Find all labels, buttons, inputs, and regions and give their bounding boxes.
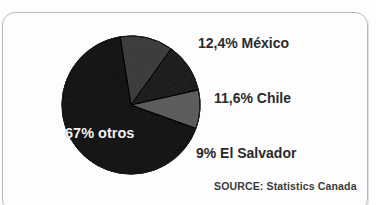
source-note: SOURCE: Statistics Canada — [214, 180, 357, 192]
pie-chart: 67% otros 12,4% México 11,6% Chile 9% El… — [0, 0, 376, 205]
pie-label-mexico: 12,4% México — [198, 35, 289, 51]
pie-chart-svg — [0, 0, 376, 205]
pie-slices-group — [62, 36, 200, 174]
screenshot-root: 67% otros 12,4% México 11,6% Chile 9% El… — [0, 0, 376, 205]
pie-label-otros: 67% otros — [65, 125, 134, 141]
pie-label-el-salvador: 9% El Salvador — [196, 145, 296, 161]
pie-label-chile: 11,6% Chile — [214, 90, 291, 106]
